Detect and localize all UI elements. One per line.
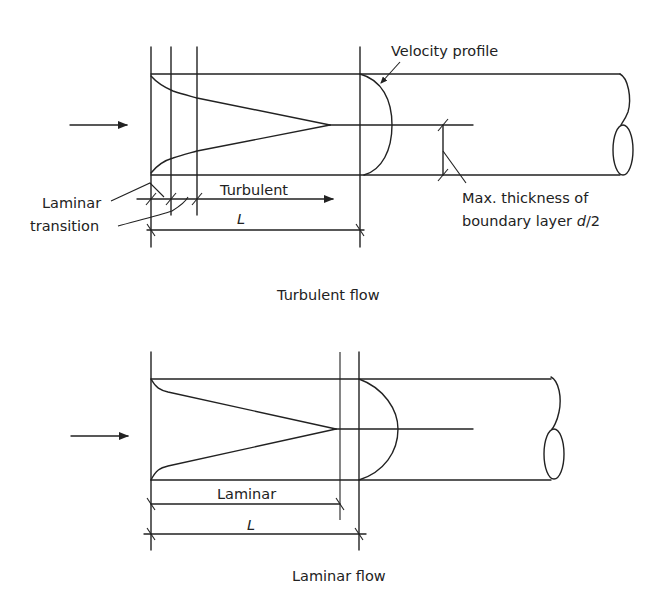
turbulent-caption: Turbulent flow — [276, 287, 380, 303]
boundary-note-line1: Max. thickness of — [462, 190, 589, 206]
pipe-break-end — [551, 377, 560, 429]
turbulent-label: Turbulent — [219, 182, 288, 198]
boundary-note-line2: boundary layer d/2 — [462, 213, 600, 229]
boundary-layer-bottom — [151, 429, 336, 480]
laminar-zone-label: Laminar — [42, 195, 101, 211]
laminar-length-label: Laminar — [217, 486, 276, 502]
velocity-profile-pointer — [381, 62, 400, 83]
laminar-flow-diagram: Laminar L Laminar flow — [71, 352, 564, 584]
pipe-break-end — [620, 74, 630, 125]
boundary-layer-bottom — [151, 125, 330, 173]
entrance-length-label: L — [247, 517, 255, 533]
entrance-length-label: L — [237, 211, 245, 227]
boundary-layer-top — [151, 379, 336, 429]
pipe-flow-diagram: Velocity profile Max. thickness of bound… — [0, 0, 669, 606]
velocity-profile-label: Velocity profile — [391, 43, 498, 59]
turbulent-flow-diagram: Velocity profile Max. thickness of bound… — [30, 43, 633, 303]
laminar-caption: Laminar flow — [292, 568, 386, 584]
pipe-break-ellipse — [544, 429, 564, 479]
transition-leader — [118, 197, 188, 226]
transition-zone-label: transition — [30, 218, 99, 234]
boundary-layer-top — [151, 76, 330, 125]
boundary-note-leader — [443, 151, 466, 183]
pipe-break-ellipse — [613, 125, 633, 175]
